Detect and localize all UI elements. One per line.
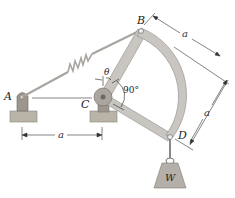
weight-label: W [165,172,176,183]
mechanism-diagram: θ 90° a a a W [0,0,235,198]
dimension-top-label: a [182,28,188,39]
right-angle-label: 90° [123,85,139,95]
dimension-side-label: a [204,107,210,118]
pin-b [139,29,144,34]
dimension-top [144,13,229,84]
point-c-label: C [81,98,90,111]
bell-crank [101,28,187,141]
dimension-ac-label: a [58,129,64,140]
point-d-label: D [177,129,187,142]
theta-label: θ [104,67,110,77]
pivot-c [94,88,112,106]
point-a-label: A [3,90,12,103]
weight-hanger [166,139,174,164]
pin-d [168,135,173,140]
point-b-label: B [136,14,145,27]
